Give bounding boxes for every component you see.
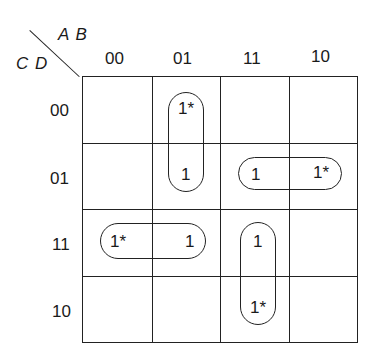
cell-01-10: 1* (313, 164, 329, 181)
grid-line (83, 209, 357, 210)
cell-01-01: 1 (181, 166, 190, 183)
row-label-00: 00 (50, 102, 69, 119)
column-variables-label: A B (58, 26, 88, 43)
row-label-11: 11 (52, 236, 70, 253)
karnaugh-map-grid (82, 76, 358, 343)
cell-11-11: 1 (253, 233, 262, 250)
column-label-11: 11 (243, 50, 261, 67)
row-label-10: 10 (52, 303, 71, 320)
cell-00-01: 1* (178, 100, 194, 117)
row-variables-label: C D (16, 55, 48, 72)
grid-line (83, 276, 357, 277)
cell-01-11: 1 (251, 166, 260, 183)
row-label-01: 01 (50, 170, 69, 187)
cell-10-11: 1* (250, 299, 266, 316)
cell-11-00: 1* (110, 233, 126, 250)
grid-line (83, 143, 357, 144)
cell-11-01: 1 (185, 233, 194, 250)
column-label-01: 01 (173, 50, 192, 67)
column-label-00: 00 (105, 50, 124, 67)
column-label-10: 10 (311, 48, 330, 65)
